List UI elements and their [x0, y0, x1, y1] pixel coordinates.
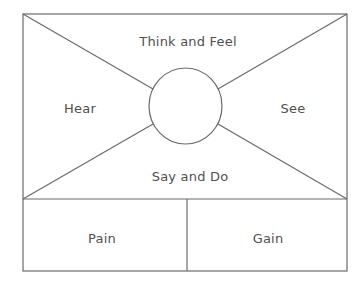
section-label-pain: Pain [88, 231, 116, 246]
diagonal-top-right [218, 14, 347, 89]
quadrant-label-hear: Hear [64, 101, 96, 116]
quadrant-label-see: See [281, 101, 306, 116]
section-label-gain: Gain [253, 231, 284, 246]
diagonal-bottom-left [23, 124, 153, 199]
center-circle [149, 68, 222, 144]
quadrant-label-say-and-do: Say and Do [152, 169, 229, 184]
diagonal-top-left [23, 14, 153, 89]
quadrant-label-think-and-feel: Think and Feel [139, 34, 236, 49]
diagonal-bottom-right [218, 124, 347, 199]
